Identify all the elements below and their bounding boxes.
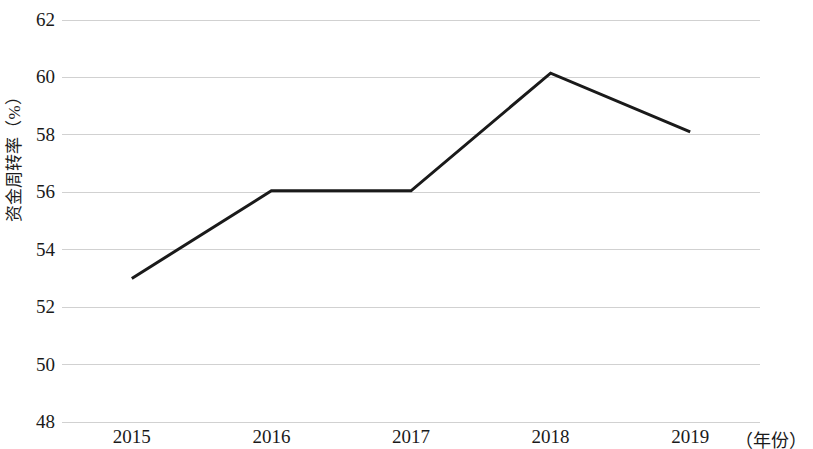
x-axis-tick-label: 2017 — [351, 426, 471, 448]
x-axis-title: （年份） — [735, 426, 813, 449]
x-axis-tick-label: 2015 — [72, 426, 192, 448]
x-axis-tick-label: 2016 — [211, 426, 331, 448]
x-axis-tick-label: 2018 — [491, 426, 611, 448]
x-axis-tick-labels: 20152016201720182019 — [0, 0, 813, 449]
x-axis-tick-label: 2019 — [630, 426, 750, 448]
line-chart: 资金周转率（%） 6260585654525048 20152016201720… — [0, 0, 813, 449]
